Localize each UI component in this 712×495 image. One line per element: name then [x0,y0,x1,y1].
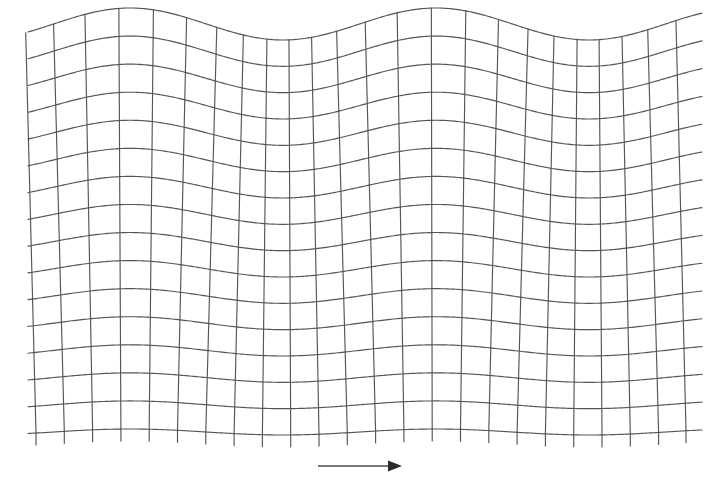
figure-background [0,0,712,495]
figure-root [0,0,712,495]
wave-grid-figure [0,0,712,495]
